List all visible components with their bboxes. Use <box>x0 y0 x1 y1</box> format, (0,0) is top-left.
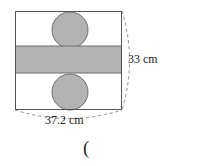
paren-annotation: ( <box>83 138 89 157</box>
width-dimension-label: 37.2 cm <box>45 114 84 126</box>
height-dimension-label: 33 cm <box>128 53 158 65</box>
horizontal-shaded-band <box>16 46 122 73</box>
bottom-shaded-circle <box>52 74 88 110</box>
top-shaded-circle <box>52 12 88 48</box>
figure-svg <box>0 0 202 166</box>
geometry-figure: 33 cm 37.2 cm ( <box>0 0 202 166</box>
